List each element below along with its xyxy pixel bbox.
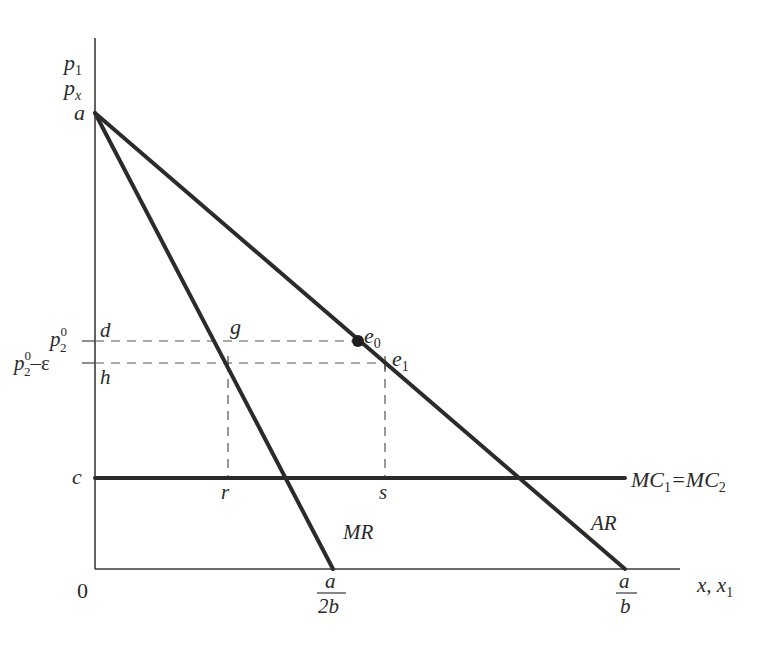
y-axis-label-px: px — [62, 75, 82, 103]
label-a-over-b-numerator: a — [619, 569, 630, 593]
label-h: h — [100, 365, 111, 389]
label-a-over-2b-numerator: a — [325, 569, 336, 593]
e0-point — [352, 335, 364, 347]
label-a-over-2b-denominator: 2b — [318, 594, 339, 618]
label-p2-0-minus-eps: p02–ε — [12, 348, 50, 379]
label-mc1-mc2: MC1=MC2 — [630, 467, 726, 495]
label-g: g — [230, 314, 241, 339]
label-d: d — [100, 318, 111, 342]
x-axis-label: x, x1 — [696, 573, 733, 600]
label-c: c — [72, 464, 82, 489]
origin-label: 0 — [77, 578, 88, 603]
label-e0: e0 — [364, 323, 381, 351]
label-s: s — [379, 480, 387, 504]
label-a: a — [74, 100, 85, 125]
label-r: r — [221, 480, 230, 504]
economics-diagram: p1 px a p02 d p02–ε h c 0 g e0 e1 r s MR… — [0, 0, 776, 649]
label-mr: MR — [342, 520, 373, 544]
y-axis-label-p1: p1 — [62, 50, 82, 78]
label-p2-0: p02 — [48, 324, 67, 355]
label-e1: e1 — [392, 346, 409, 374]
label-ar: AR — [589, 511, 617, 535]
label-a-over-b-denominator: b — [620, 594, 631, 618]
